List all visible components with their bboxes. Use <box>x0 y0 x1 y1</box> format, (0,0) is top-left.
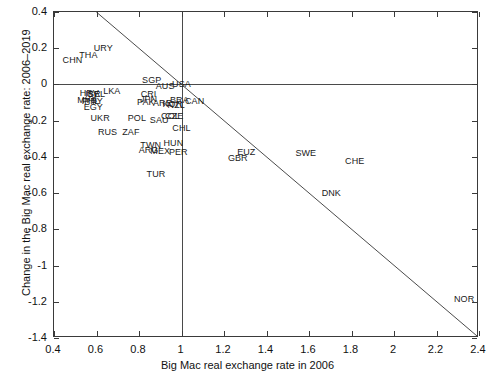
data-point-label-cze: CZE <box>165 112 183 121</box>
x-tick <box>139 331 140 336</box>
y-tick <box>472 84 477 85</box>
y-tick <box>472 157 477 158</box>
data-point-label-per: PER <box>169 147 188 156</box>
x-tick <box>309 12 310 17</box>
x-tick <box>224 331 225 336</box>
y-tick <box>472 121 477 122</box>
y-tick <box>54 229 59 230</box>
data-point-label-rus: RUS <box>98 127 117 136</box>
data-point-label-chl: CHL <box>172 123 190 132</box>
x-tick-label: 1.6 <box>300 343 315 355</box>
x-tick <box>182 12 183 17</box>
y-tick <box>472 48 477 49</box>
data-point-label-gbr: GBR <box>228 153 248 162</box>
data-point-label-dnk: DNK <box>322 188 341 197</box>
x-tick-label: 1.4 <box>258 343 273 355</box>
data-point-label-egy: EGY <box>84 102 103 111</box>
y-axis-title: Change in the Big Mac real exchange rate… <box>20 36 32 296</box>
y-tick <box>54 84 59 85</box>
x-tick <box>309 331 310 336</box>
data-point-label-zaf: ZAF <box>122 127 139 136</box>
scatter-chart-figure: CHNTHAURYHRVISRBELMYSPHLPRYEGYLKAUKRRUSS… <box>0 0 495 381</box>
x-tick <box>224 12 225 17</box>
y-tick <box>54 157 59 158</box>
y-tick <box>54 121 59 122</box>
data-point-label-usa: USA <box>172 80 191 89</box>
x-tick <box>394 12 395 17</box>
x-tick-label: 1.2 <box>215 343 230 355</box>
data-point-label-che: CHE <box>345 156 364 165</box>
x-tick <box>479 331 480 336</box>
x-axis-title: Big Mac real exchange rate in 2006 <box>0 359 495 371</box>
x-tick-label: 1.8 <box>343 343 358 355</box>
x-tick-label: 1 <box>177 343 183 355</box>
x-tick <box>139 12 140 17</box>
x-tick-label: 0.4 <box>45 343 60 355</box>
y-tick <box>54 266 59 267</box>
data-point-label-ukr: UKR <box>90 113 109 122</box>
x-tick <box>437 12 438 17</box>
x-tick <box>437 331 438 336</box>
x-tick <box>352 331 353 336</box>
data-point-label-tur: TUR <box>147 169 166 178</box>
y-tick <box>472 338 477 339</box>
x-tick <box>267 331 268 336</box>
y-tick <box>472 229 477 230</box>
x-tick-label: 2 <box>390 343 396 355</box>
y-tick <box>54 302 59 303</box>
x-tick <box>352 12 353 17</box>
y-tick <box>472 12 477 13</box>
x-tick <box>182 331 183 336</box>
data-point-label-ury: URY <box>94 43 113 52</box>
x-tick-label: 2.2 <box>428 343 443 355</box>
x-tick <box>54 331 55 336</box>
y-tick-label: 0.4 <box>14 5 47 17</box>
y-tick <box>54 48 59 49</box>
x-tick <box>394 331 395 336</box>
x-tick <box>97 331 98 336</box>
plot-area: CHNTHAURYHRVISRBELMYSPHLPRYEGYLKAUKRRUSS… <box>53 11 478 337</box>
data-point-label-pak: PAK <box>137 98 155 107</box>
y-tick <box>472 193 477 194</box>
y-tick <box>54 193 59 194</box>
data-point-label-can: CAN <box>185 97 204 106</box>
x-tick <box>479 12 480 17</box>
data-point-label-swe: SWE <box>295 148 316 157</box>
full-reversion-diagonal-line <box>54 12 477 336</box>
y-tick-label: -1.4 <box>14 331 47 343</box>
x-tick-label: 2.4 <box>470 343 485 355</box>
x-tick-label: 0.6 <box>88 343 103 355</box>
y-tick <box>54 12 59 13</box>
data-point-label-lka: LKA <box>103 86 120 95</box>
x-tick <box>267 12 268 17</box>
x-tick <box>97 12 98 17</box>
y-tick-label: -1.2 <box>14 295 47 307</box>
x-tick-label: 0.8 <box>130 343 145 355</box>
data-point-label-nor: NOR <box>454 294 474 303</box>
y-tick <box>472 266 477 267</box>
y-tick <box>54 338 59 339</box>
data-point-label-pol: POL <box>128 114 146 123</box>
